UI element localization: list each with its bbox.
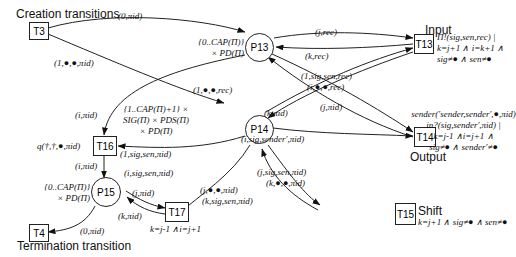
p14-type-line3: × PD(Π)	[112, 127, 200, 136]
p13-type-line2: × PD(Π)	[140, 49, 244, 58]
arc-label-p15-t4: (0,πid)	[80, 227, 104, 236]
arc-label-p13-t14: (j,πid)	[320, 103, 342, 112]
p14-type-line1: {1..CAP(Π)+1} ×	[112, 105, 200, 114]
transition-label: T4	[33, 228, 45, 239]
t14-guard-text: sig≠● ∧ sender'≠●	[429, 143, 498, 152]
t17-guard: k=j-1 ∧i=j+1	[150, 225, 201, 234]
t14-guard-line1: sender('sender,sender',●,πid)	[440, 110, 487, 119]
transition-t17[interactable]: T17	[165, 202, 189, 222]
arc-label-t14-p13: (k,πid)	[264, 109, 288, 118]
arc-label-t17-p15: (k,πid)	[118, 212, 142, 221]
arc-label-t3-p13: (0,πid)	[118, 12, 142, 21]
arc-label-t15-p14-line2: (k,sig,sen,πid)	[202, 197, 253, 206]
arc-label-text: (i,sig,sender',πid)	[241, 134, 304, 144]
creation-transitions-heading: Creation transitions	[16, 8, 119, 20]
t14-guard-text: k=j-1 ∧i=j+1 ∧	[433, 132, 493, 141]
transition-t16[interactable]: T16	[93, 136, 117, 156]
arc-t13-p13	[276, 44, 413, 48]
t16-guard: q(†,†,●,πid)	[37, 142, 80, 151]
place-p15[interactable]: P15	[91, 177, 121, 207]
t13-guard-line3: sig≠● ∧ sen≠●	[437, 55, 492, 64]
p15-type-line2: × PD(Π)	[30, 194, 90, 203]
arc-p14-t16	[118, 136, 245, 147]
t13-guard-line2: k=j+1 ∧ i=k+1 ∧	[437, 44, 504, 53]
t14-guard-text: in?(sig,sender',πid) |	[426, 121, 501, 130]
transition-label: T16	[96, 141, 113, 152]
arc-label-p14-t15-line1: (j,sig,sen,πid)	[257, 168, 306, 177]
arc-label-p13-t16: (i,πid)	[75, 111, 97, 120]
transition-label: T14	[416, 132, 433, 143]
p13-type-line1: {0..CAP(Π)}	[140, 38, 244, 47]
arc-label-p14-t16: (1,sig,sen,πid)	[120, 150, 171, 159]
arc-label-t3-p14: (1,●,●,πid)	[54, 59, 94, 68]
transition-t3[interactable]: T3	[29, 22, 49, 40]
transition-label: T15	[397, 209, 414, 220]
place-label: P13	[251, 42, 269, 53]
arc-label-p14-t14: (i,sig,sender',πid)	[239, 131, 303, 140]
t14-guard-line3: k=j-1 ∧i=j+1 ∧	[440, 132, 487, 141]
shift-heading: Shift	[418, 205, 442, 217]
p14-type-line2: SIG(Π) × PDS(Π)	[112, 116, 200, 125]
transition-label: T17	[168, 207, 185, 218]
arc-label-p15-t17: (j,πid)	[132, 189, 154, 198]
arc-label-t13-p14: (1,●,●,rec)	[193, 86, 232, 95]
transition-label: T13	[415, 39, 432, 50]
arc-p13-t14	[272, 54, 413, 132]
transition-label: T3	[33, 26, 45, 37]
t14-guard-text: sender('sender,sender',●,πid)	[411, 110, 516, 119]
arc-p13-t13	[274, 33, 413, 38]
t14-guard-line4: sig≠● ∧ sender'≠●	[440, 143, 487, 152]
arc-label-p13-t13: (j,rec)	[315, 28, 337, 37]
arc-label-t13-p13: (k,rec)	[305, 52, 328, 61]
output-heading: Output	[410, 151, 446, 163]
t13-guard-line1: Π!(sig,sen,rec) |	[437, 33, 495, 42]
arc-label-t16-p15: (i,πid)	[75, 162, 97, 171]
place-label: P15	[97, 187, 115, 198]
transition-t13[interactable]: T13	[414, 34, 434, 54]
arc-label-p14-t15-line2: (k,●,●,πid)	[266, 179, 305, 188]
arc-label-p14-t17: (i,sig,sen,πid)	[124, 169, 173, 178]
place-p13[interactable]: P13	[245, 33, 274, 62]
arc-label-p14-t13b: (i,●,●,rec)	[307, 83, 344, 92]
arc-t14-p13	[268, 57, 413, 137]
p15-type-line1: {0..CAP(Π)}	[30, 183, 90, 192]
transition-t4[interactable]: T4	[29, 224, 49, 242]
t14-guard-line2: in?(sig,sender',πid) |	[440, 121, 487, 130]
arc-label-p14-t13: (1,sig,sen,rec)	[301, 72, 352, 81]
t15-guard: k=j+1 ∧ sig≠● ∧ sen≠●	[418, 218, 507, 227]
transition-t15[interactable]: T15	[395, 203, 416, 225]
arc-label-t15-p14-line1: (j,●,●,πid)	[200, 186, 238, 195]
